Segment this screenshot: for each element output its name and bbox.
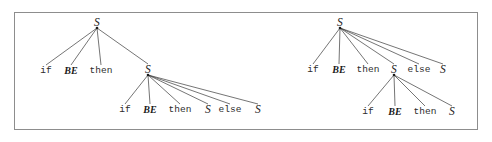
right-tree-nonterminal-be-13: BE — [332, 65, 346, 75]
left-tree-nonterminal-be-2: BE — [64, 66, 78, 76]
left-tree-terminal-if-5: if — [119, 105, 131, 115]
left-tree-nonterminal-s-10: S — [255, 104, 261, 116]
left-tree-terminal-then-7: then — [168, 105, 191, 115]
right-tree-terminal-then-14: then — [356, 65, 379, 75]
left-tree-nonterminal-be-6: BE — [143, 105, 157, 115]
right-tree-terminal-else-15: else — [407, 65, 430, 75]
right-tree-nonterminal-be-19: BE — [388, 107, 402, 117]
right-tree-nonterminal-s-16: S — [440, 64, 446, 76]
figure-canvas: SifBEthenSifBEthenSelseSSifBEthenelseSSi… — [0, 0, 492, 142]
right-tree-nonterminal-s-17: S — [391, 64, 397, 76]
left-tree-terminal-else-9: else — [218, 105, 241, 115]
right-tree-nonterminal-s-21: S — [449, 106, 455, 118]
right-tree-terminal-then-20: then — [413, 107, 436, 117]
right-tree-terminal-if-12: if — [307, 65, 319, 75]
right-tree-terminal-if-18: if — [362, 107, 374, 117]
left-tree-nonterminal-s-4: S — [145, 64, 151, 76]
left-tree-root-s-0: S — [94, 17, 100, 29]
left-tree-terminal-then-3: then — [89, 66, 112, 76]
left-tree-terminal-if-1: if — [40, 66, 52, 76]
left-tree-nonterminal-s-8: S — [205, 104, 211, 116]
right-tree-root-s-11: S — [337, 17, 343, 29]
